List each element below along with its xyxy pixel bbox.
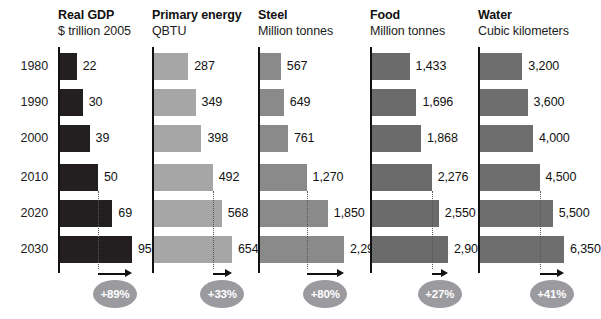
- bar: [260, 89, 284, 116]
- bar-value-label: 1,433: [416, 59, 447, 73]
- bar: [480, 125, 533, 152]
- bar: [154, 89, 196, 116]
- growth-arrow-head: [557, 269, 564, 277]
- bar-value-label: 3,600: [534, 95, 565, 109]
- panel-title: Primary energy: [152, 8, 242, 22]
- bar-value-label: 492: [219, 170, 240, 184]
- bar: [372, 200, 439, 227]
- bar-value-label: 30: [89, 95, 103, 109]
- bar-value-label: 39: [96, 131, 110, 145]
- growth-arrow-icon: [98, 269, 132, 278]
- bar: [154, 125, 201, 152]
- bar-value-label: 654: [238, 242, 259, 256]
- year-label: 1980: [0, 59, 48, 73]
- growth-badge: +80%: [303, 280, 347, 308]
- bar: [260, 53, 281, 80]
- growth-arrow-icon: [432, 269, 448, 278]
- bar: [372, 89, 416, 116]
- bar-value-label: 6,350: [570, 242, 601, 256]
- growth-badge: +33%: [200, 280, 244, 308]
- bar-value-label: 761: [294, 131, 315, 145]
- growth-arrow-icon: [540, 269, 564, 278]
- bar: [480, 236, 564, 263]
- growth-arrow-shaft: [540, 273, 558, 275]
- bar: [154, 200, 222, 227]
- bar-value-label: 4,500: [546, 170, 577, 184]
- bar-value-label: 568: [228, 206, 249, 220]
- growth-arrow-icon: [213, 269, 232, 278]
- bar-value-label: 50: [104, 170, 118, 184]
- bar-value-label: 95: [138, 242, 152, 256]
- bar-value-label: 567: [287, 59, 308, 73]
- bar: [154, 164, 213, 191]
- bar-value-label: 649: [290, 95, 311, 109]
- baseline-reference-line: [540, 191, 541, 269]
- growth-arrow-shaft: [213, 273, 226, 275]
- year-label: 2010: [0, 170, 48, 184]
- bar-value-label: 2,276: [438, 170, 469, 184]
- year-label: 1990: [0, 95, 48, 109]
- bar-value-label: 4,000: [539, 131, 570, 145]
- bar: [372, 236, 448, 263]
- bar: [60, 236, 132, 263]
- bar: [260, 200, 328, 227]
- panel-subtitle: Million tonnes: [370, 24, 445, 38]
- year-label: 2020: [0, 206, 48, 220]
- panel-title: Water: [478, 8, 512, 22]
- panel-subtitle: $ trillion 2005: [58, 24, 131, 38]
- bar-value-label: 1,868: [427, 131, 458, 145]
- bar-value-label: 22: [83, 59, 97, 73]
- bar: [372, 125, 421, 152]
- year-label: 2000: [0, 131, 48, 145]
- bar: [60, 200, 112, 227]
- bar-value-label: 1,850: [334, 206, 365, 220]
- bar: [480, 53, 522, 80]
- panel-title: Food: [370, 8, 400, 22]
- bar: [372, 53, 410, 80]
- growth-badge: +41%: [530, 280, 574, 308]
- bar-value-label: 69: [118, 206, 132, 220]
- bar: [260, 236, 344, 263]
- growth-arrow-head: [125, 269, 132, 277]
- growth-arrow-head: [337, 269, 344, 277]
- baseline-reference-line: [98, 191, 99, 269]
- panel-subtitle: Million tonnes: [258, 24, 333, 38]
- bar-value-label: 398: [207, 131, 228, 145]
- bar: [60, 53, 77, 80]
- bar-value-label: 349: [202, 95, 223, 109]
- baseline-reference-line: [307, 191, 308, 269]
- bar: [154, 236, 232, 263]
- bar: [60, 89, 83, 116]
- bar: [154, 53, 188, 80]
- growth-badge: +89%: [93, 280, 137, 308]
- growth-arrow-shaft: [98, 273, 126, 275]
- growth-badge: +27%: [418, 280, 462, 308]
- growth-arrow-head: [441, 269, 448, 277]
- panel-title: Steel: [258, 8, 287, 22]
- year-axis-labels: 198019902000201020202030: [0, 0, 54, 319]
- bar: [480, 89, 528, 116]
- bar: [372, 164, 432, 191]
- panel-title: Real GDP: [58, 8, 114, 22]
- bar-value-label: 1,696: [422, 95, 453, 109]
- bar: [60, 125, 90, 152]
- bar: [480, 200, 553, 227]
- bar-value-label: 1,270: [313, 170, 344, 184]
- panel-subtitle: Cubic kilometers: [478, 24, 569, 38]
- year-label: 2030: [0, 242, 48, 256]
- bar-value-label: 2,550: [445, 206, 476, 220]
- panel-subtitle: QBTU: [152, 24, 186, 38]
- bar-value-label: 5,500: [559, 206, 590, 220]
- baseline-reference-line: [213, 191, 214, 269]
- bar: [60, 164, 98, 191]
- baseline-reference-line: [432, 191, 433, 269]
- bar-value-label: 287: [194, 59, 215, 73]
- source-note-cropped: [0, 311, 595, 319]
- bar-value-label: 3,200: [528, 59, 559, 73]
- growth-arrow-icon: [307, 269, 344, 278]
- bar: [260, 125, 288, 152]
- bar: [260, 164, 307, 191]
- bar: [480, 164, 540, 191]
- growth-arrow-shaft: [307, 273, 338, 275]
